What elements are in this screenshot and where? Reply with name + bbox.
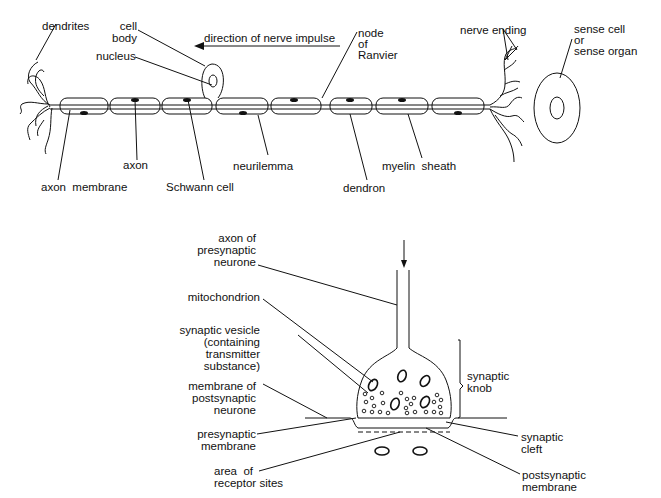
label-presynaptic-membrane: presynaptic membrane bbox=[150, 428, 256, 452]
diagram-drawing bbox=[0, 0, 661, 498]
label-area-of-receptor-sites: area of receptor sites bbox=[214, 465, 283, 489]
myelin-segments bbox=[60, 98, 484, 114]
label-mitochondrion: mitochondrion bbox=[160, 291, 260, 303]
label-direction-of-nerve-impulse: direction of nerve impulse bbox=[204, 32, 335, 44]
vesicles bbox=[362, 391, 443, 415]
synapse-drawing bbox=[257, 240, 520, 474]
nerve-ending-drawing bbox=[490, 46, 524, 162]
label-neurilemma: neurilemma bbox=[233, 160, 293, 172]
label-dendron: dendron bbox=[343, 182, 385, 194]
label-axon: axon bbox=[123, 159, 148, 171]
label-axon-of-presynaptic-neurone: axon of presynaptic neurone bbox=[180, 232, 256, 268]
label-myelin-sheath: myelin sheath bbox=[382, 160, 456, 172]
label-sense-cell: sense cell or sense organ bbox=[574, 24, 637, 57]
label-nerve-ending: nerve ending bbox=[460, 24, 527, 36]
label-postsynaptic-membrane: postsynaptic membrane bbox=[522, 469, 586, 493]
label-cell-body: cell body bbox=[103, 20, 137, 44]
label-axon-membrane: axon membrane bbox=[41, 181, 127, 193]
label-node-of-ranvier: node of Ranvier bbox=[358, 28, 398, 61]
label-membrane-of-postsynaptic-neurone: membrane of postsynaptic neurone bbox=[150, 380, 256, 416]
label-dendrites: dendrites bbox=[42, 20, 89, 32]
neurone-drawing bbox=[20, 24, 580, 180]
mitochondria bbox=[367, 369, 432, 455]
label-synaptic-knob: synaptic knob bbox=[467, 370, 509, 394]
label-schwann-cell: Schwann cell bbox=[166, 181, 234, 193]
label-synaptic-cleft: synaptic cleft bbox=[521, 431, 563, 455]
label-nucleus: nucleus bbox=[96, 50, 136, 62]
dendrites-drawing bbox=[20, 62, 52, 154]
label-synaptic-vesicle: synaptic vesicle (containing transmitter… bbox=[150, 324, 260, 372]
